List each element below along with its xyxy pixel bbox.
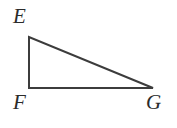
vertex-label-e: E [13,6,26,27]
vertex-label-f: F [13,92,26,113]
vertex-label-g: G [146,92,161,113]
triangle-efg-outline [29,37,153,88]
geometry-figure: E F G [0,0,177,128]
